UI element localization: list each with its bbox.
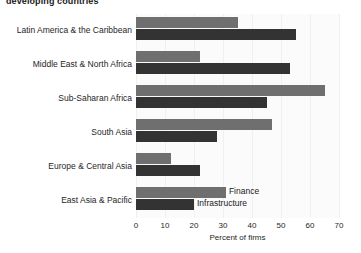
bar-finance	[136, 119, 272, 130]
category-label: Latin America & the Caribbean	[2, 25, 132, 35]
category-label: Sub-Saharan Africa	[2, 93, 132, 103]
bar-infrastructure	[136, 63, 290, 74]
bar-group	[136, 82, 339, 116]
legend-label-infrastructure: Infrastructure	[197, 198, 247, 208]
x-axis-title: Percent of firms	[136, 233, 339, 242]
bar-finance	[136, 153, 171, 164]
x-tick-label: 20	[190, 221, 199, 230]
x-tick-label: 0	[134, 221, 138, 230]
x-tick-label: 50	[277, 221, 286, 230]
bar-group	[136, 150, 339, 184]
chart-figure: developing countries Latin America & the…	[0, 0, 361, 253]
bar-group	[136, 48, 339, 82]
bar-finance	[136, 17, 238, 28]
bar-group	[136, 14, 339, 48]
bar-finance	[136, 51, 200, 62]
bar-infrastructure	[136, 131, 217, 142]
bar-finance	[136, 85, 325, 96]
bar-infrastructure	[136, 199, 194, 210]
category-label: East Asia & Pacific	[2, 195, 132, 205]
x-tick-label: 30	[219, 221, 228, 230]
bar-infrastructure	[136, 97, 267, 108]
bar-infrastructure	[136, 29, 296, 40]
x-tick-label: 60	[306, 221, 315, 230]
plot-area: FinanceInfrastructure	[136, 14, 339, 218]
chart-title: developing countries	[6, 0, 99, 6]
category-axis-labels: Latin America & the CaribbeanMiddle East…	[0, 14, 132, 218]
x-axis: 010203040506070	[136, 218, 339, 234]
gridline	[339, 14, 340, 218]
bar-finance	[136, 187, 226, 198]
legend-label-finance: Finance	[229, 186, 259, 196]
x-tick-label: 40	[248, 221, 257, 230]
category-label: Middle East & North Africa	[2, 59, 132, 69]
bar-infrastructure	[136, 165, 200, 176]
x-tick-label: 10	[161, 221, 170, 230]
category-label: Europe & Central Asia	[2, 161, 132, 171]
category-label: South Asia	[2, 127, 132, 137]
bar-group	[136, 116, 339, 150]
x-tick-label: 70	[335, 221, 344, 230]
